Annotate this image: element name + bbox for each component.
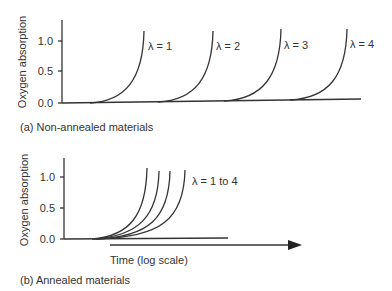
curve-b-1 — [92, 168, 147, 239]
ytick-a-3: 0.0 — [38, 97, 53, 109]
label-lambda-4: λ = 4 — [350, 38, 374, 50]
diagram: 1.0 0.5 0.0 Oxygen absorption λ = 1 λ = … — [0, 0, 392, 291]
label-lambda-range: λ = 1 to 4 — [192, 175, 238, 187]
xlabel-b: Time (log scale) — [110, 254, 188, 266]
ylabel-a: Oxygen absorption — [16, 16, 28, 108]
label-lambda-1: λ = 1 — [148, 40, 172, 52]
ytick-b-3: 0.0 — [40, 233, 55, 245]
ytick-a-2: 0.5 — [38, 65, 53, 77]
curve-b-2 — [94, 171, 159, 239]
x-axis-b — [64, 238, 228, 239]
ytick-a-1: 1.0 — [38, 35, 53, 47]
ytick-b-1: 1.0 — [40, 171, 55, 183]
panel-a — [58, 20, 361, 103]
ytick-b-2: 0.5 — [40, 202, 55, 214]
panel-b — [60, 158, 290, 245]
curve-lambda-1 — [90, 31, 144, 103]
caption-b: (b) Annealed materials — [20, 274, 131, 286]
label-lambda-3: λ = 3 — [284, 39, 308, 51]
arrow-head-icon — [288, 240, 302, 250]
caption-a: (a) Non-annealed materials — [20, 121, 154, 133]
label-lambda-2: λ = 2 — [216, 40, 240, 52]
ylabel-b: Oxygen absorption — [18, 154, 30, 246]
